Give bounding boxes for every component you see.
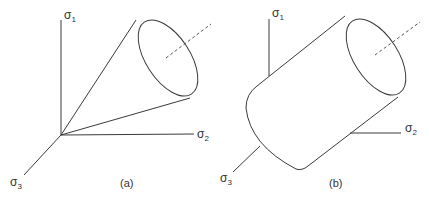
sigma2-label-a: σ2 — [197, 127, 209, 143]
caption-b: (b) — [329, 177, 342, 189]
sigma2-label-b: σ2 — [405, 121, 417, 137]
sigma1-label-b: σ1 — [272, 6, 284, 22]
caption-a: (a) — [120, 177, 133, 189]
cone-lower-generator — [61, 98, 190, 135]
panel-b-cylinder: σ1 σ2 σ3 (b) — [220, 6, 420, 189]
yield-surface-figure: σ1 σ2 σ3 (a) σ1 σ2 σ3 (b) — [0, 0, 429, 212]
sigma3-label-a: σ3 — [10, 175, 22, 191]
sigma3-axis-b — [233, 146, 260, 172]
sigma3-label-b: σ3 — [220, 171, 232, 187]
cone-upper-generator — [61, 20, 136, 135]
hydrostatic-axis-a — [166, 24, 211, 58]
panel-a-cone: σ1 σ2 σ3 (a) — [10, 8, 211, 191]
sigma1-label-a: σ1 — [64, 8, 76, 24]
cone-base-ellipse — [126, 10, 210, 106]
sigma2-axis-a — [61, 134, 194, 135]
sigma3-axis-a — [24, 135, 61, 175]
cylinder-end-ellipse — [334, 9, 418, 105]
